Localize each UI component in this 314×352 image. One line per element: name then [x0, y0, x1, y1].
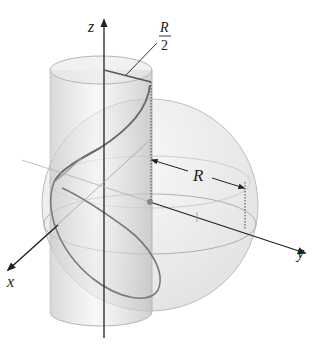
cylinder-top: [50, 56, 152, 84]
z-axis-label: z: [87, 18, 95, 35]
cylinder: [50, 56, 152, 326]
y-axis-label: y: [295, 244, 305, 262]
diagram-canvas: z x y R R 2: [0, 0, 314, 352]
origin-point: [147, 199, 153, 205]
x-axis-label: x: [6, 273, 14, 290]
half-radius-numerator: R: [159, 20, 169, 35]
half-radius-denominator: 2: [161, 38, 168, 53]
half-radius-label: R 2: [159, 20, 171, 53]
figure: z x y R R 2: [0, 0, 314, 352]
radius-label: R: [192, 166, 204, 185]
